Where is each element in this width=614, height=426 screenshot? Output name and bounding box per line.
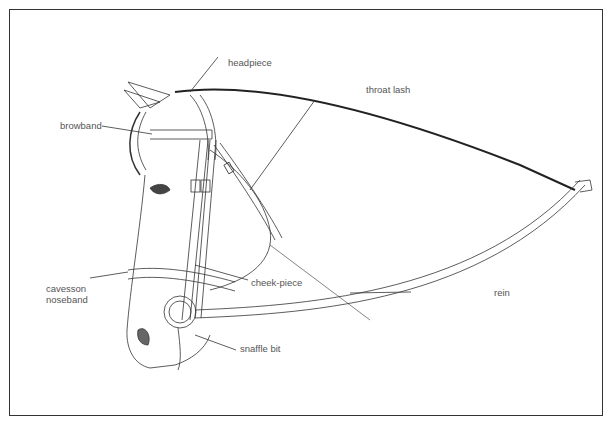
label-throat-lash: throat lash [366, 84, 410, 95]
label-noseband: noseband [46, 294, 88, 305]
horse-bridle-illustration [0, 0, 614, 426]
label-cavesson: cavesson [46, 283, 86, 294]
label-browband: browband [60, 120, 102, 131]
label-rein: rein [494, 287, 510, 298]
label-cheek-piece: cheek-piece [251, 277, 302, 288]
label-headpiece: headpiece [228, 57, 272, 68]
label-snaffle-bit: snaffle bit [240, 343, 281, 354]
